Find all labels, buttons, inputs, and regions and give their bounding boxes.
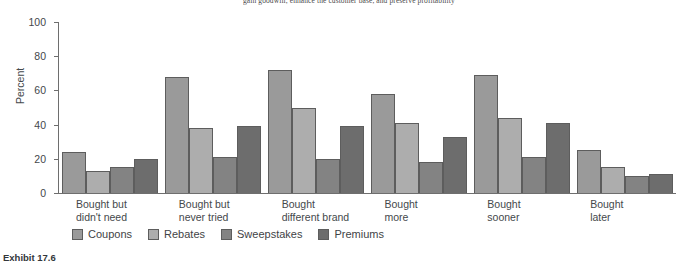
bar[interactable] [213,157,237,193]
bar[interactable] [165,77,189,193]
plot-area: 020406080100 [58,22,676,194]
bar-group [265,22,368,193]
x-category-label-line: more [384,211,470,224]
legend-swatch [318,229,329,240]
bar-group [162,22,265,193]
exhibit-caption: Exhibit 17.6 [3,252,56,262]
x-category-label: Boughtlater [573,198,676,223]
legend-swatch [72,229,83,240]
bar[interactable] [340,126,364,193]
bar-group [573,22,676,193]
bar[interactable] [601,167,625,193]
bar[interactable] [86,171,110,193]
bar[interactable] [189,128,213,193]
legend-item[interactable]: Premiums [318,228,384,240]
x-category-label: Boughtmore [367,198,470,223]
bar[interactable] [474,75,498,193]
legend-label: Coupons [88,228,132,240]
legend-label: Rebates [164,228,205,240]
bar[interactable] [292,108,316,194]
bar-group [59,22,162,193]
x-category-label-line: never tried [179,211,265,224]
legend-label: Sweepstakes [237,228,302,240]
x-category-label-line: Bought but [179,198,265,211]
x-category-label-line: sooner [487,211,573,224]
bar[interactable] [649,174,673,193]
bar[interactable] [371,94,395,193]
bar-groups [59,22,676,193]
y-tick-label: 100 [28,16,46,28]
x-category-label-line: Bought [590,198,676,211]
legend-swatch [148,229,159,240]
bar-group [367,22,470,193]
bar[interactable] [110,167,134,193]
bar[interactable] [546,123,570,193]
bar[interactable] [316,159,340,193]
x-category-label: Bought butnever tried [162,198,265,223]
bar[interactable] [268,70,292,193]
legend-item[interactable]: Coupons [72,228,132,240]
x-category-label-line: different brand [282,211,368,224]
y-tick-label: 80 [34,50,46,62]
bar[interactable] [395,123,419,193]
bar[interactable] [625,176,649,193]
x-category-label-line: Bought but [76,198,162,211]
clipped-body-text: gain goodwill, enhance the customer base… [243,0,573,5]
legend-item[interactable]: Rebates [148,228,205,240]
bar[interactable] [237,126,261,193]
x-category-label: Bought butdidn't need [59,198,162,223]
y-tick: 0 [54,193,59,194]
y-tick-label: 60 [34,84,46,96]
chart-legend: CouponsRebatesSweepstakesPremiums [72,228,393,240]
bar[interactable] [498,118,522,193]
legend-item[interactable]: Sweepstakes [221,228,302,240]
legend-label: Premiums [334,228,384,240]
x-category-label-line: Bought [384,198,470,211]
x-axis-category-labels: Bought butdidn't needBought butnever tri… [59,198,676,223]
bar[interactable] [62,152,86,193]
bar-group [470,22,573,193]
x-category-label-line: Bought [282,198,368,211]
bar[interactable] [577,150,601,193]
x-category-label-line: later [590,211,676,224]
y-axis-title: Percent [14,68,26,104]
x-category-label: Boughtdifferent brand [265,198,368,223]
bar[interactable] [522,157,546,193]
legend-swatch [221,229,232,240]
x-category-label-line: Bought [487,198,573,211]
chart-page: gain goodwill, enhance the customer base… [0,0,693,262]
y-tick-label: 0 [40,187,46,199]
x-category-label-line: didn't need [76,211,162,224]
x-axis-line [58,193,676,194]
bar[interactable] [134,159,158,193]
bar[interactable] [419,162,443,193]
bar[interactable] [443,137,467,193]
y-tick-label: 40 [34,119,46,131]
x-category-label: Boughtsooner [470,198,573,223]
y-tick-label: 20 [34,153,46,165]
